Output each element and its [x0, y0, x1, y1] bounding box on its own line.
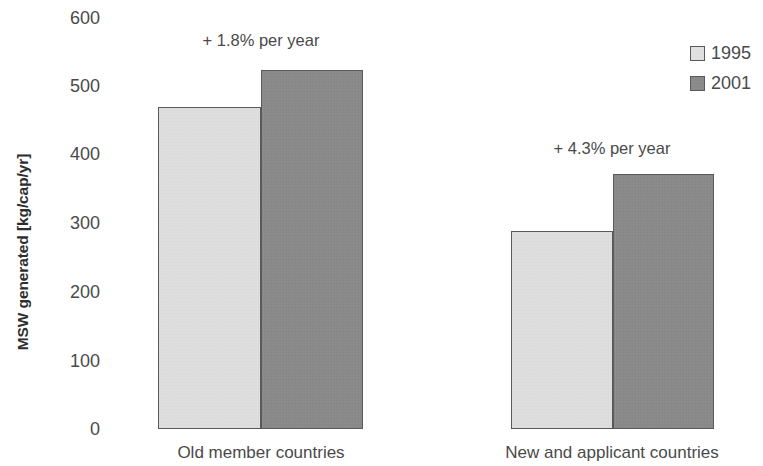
legend-label-2001: 2001 — [711, 74, 751, 92]
bar-new-applicant-countries-2001 — [613, 174, 714, 429]
legend-item-1995[interactable]: 1995 — [690, 38, 751, 68]
dark-swatch-icon — [690, 76, 705, 91]
plot-area: + 1.8% per year + 4.3% per year Old memb… — [0, 0, 763, 466]
legend-label-1995: 1995 — [711, 44, 751, 62]
annotation-old-member-growth: + 1.8% per year — [203, 31, 320, 50]
light-swatch-icon — [690, 46, 705, 61]
legend: 1995 2001 — [690, 38, 751, 98]
annotation-new-applicant-growth: + 4.3% per year — [554, 139, 671, 158]
bar-new-applicant-countries-1995 — [511, 231, 613, 429]
x-axis-label-new-applicant-countries: New and applicant countries — [505, 443, 719, 463]
bar-chart: MSW generated [kg/cap/yr] 600 500 400 30… — [0, 0, 763, 466]
bar-old-member-countries-2001 — [261, 70, 363, 429]
bar-old-member-countries-1995 — [158, 107, 261, 429]
legend-item-2001[interactable]: 2001 — [690, 68, 751, 98]
x-axis-label-old-member-countries: Old member countries — [177, 443, 344, 463]
